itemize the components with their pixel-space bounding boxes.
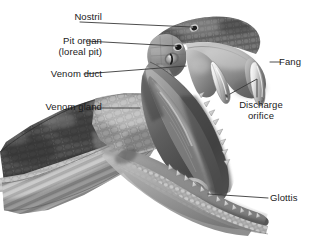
label-pit-organ: Pit organ (loreal pit) [10, 35, 102, 57]
label-venom-gland: Venom gland [6, 101, 102, 112]
label-pit-organ-line1: Pit organ [10, 35, 102, 46]
label-nostril: Nostril [46, 11, 102, 22]
label-pit-organ-line2: (loreal pit) [10, 46, 102, 57]
label-discharge-line1: Discharge [228, 99, 294, 110]
label-venom-duct: Venom duct [14, 68, 102, 79]
leader-nostril [80, 22, 192, 27]
label-discharge-line2: orifice [228, 110, 294, 121]
label-glottis: Glottis [270, 192, 308, 203]
snake-anatomy-figure: Nostril Pit organ (loreal pit) Venom duc… [0, 0, 309, 240]
label-venom-duct-text: Venom duct [51, 68, 102, 79]
label-glottis-text: Glottis [270, 192, 298, 203]
label-fang-text: Fang [279, 56, 301, 67]
label-fang: Fang [279, 56, 309, 67]
label-venom-gland-text: Venom gland [45, 101, 102, 112]
label-nostril-text: Nostril [74, 11, 102, 22]
label-discharge-orifice: Discharge orifice [228, 99, 294, 121]
